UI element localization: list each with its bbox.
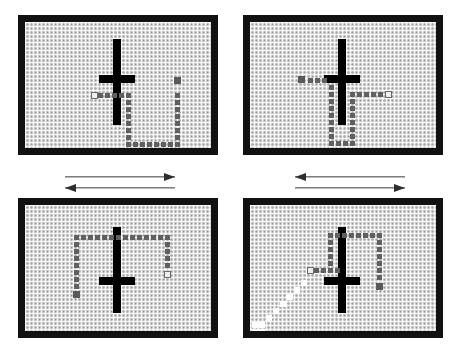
path-cell bbox=[377, 261, 382, 266]
path-cell bbox=[371, 92, 376, 97]
arrow-right-1-line bbox=[65, 176, 175, 177]
path-cell bbox=[130, 235, 135, 240]
path-cell bbox=[165, 242, 170, 247]
cross-obstacle-horizontal-bar bbox=[99, 75, 135, 83]
path-cell bbox=[315, 78, 320, 83]
path-cell bbox=[328, 233, 333, 238]
path-cell bbox=[168, 142, 173, 147]
path-cell bbox=[175, 114, 180, 119]
path-cell bbox=[74, 249, 79, 254]
path-cell bbox=[74, 277, 79, 282]
path-cell bbox=[151, 235, 156, 240]
path-cell bbox=[350, 127, 355, 132]
start-marker bbox=[385, 91, 392, 98]
path-cell bbox=[109, 235, 114, 240]
path-cell bbox=[343, 141, 348, 146]
path-cell bbox=[123, 235, 128, 240]
path-cell bbox=[350, 113, 355, 118]
trail-cell bbox=[259, 329, 265, 331]
arrow-right-2 bbox=[295, 183, 405, 192]
path-cell bbox=[126, 107, 131, 112]
path-cell bbox=[95, 235, 100, 240]
path-cell bbox=[377, 268, 382, 273]
path-cell bbox=[377, 233, 382, 238]
path-cell bbox=[357, 92, 362, 97]
path-cell bbox=[363, 233, 368, 238]
path-cell bbox=[126, 128, 131, 133]
trail-cell bbox=[287, 294, 293, 300]
path-cell bbox=[370, 233, 375, 238]
arrow-right-2-line bbox=[295, 187, 405, 188]
path-cell bbox=[329, 134, 334, 139]
path-cell bbox=[175, 142, 180, 147]
cross-obstacle-horizontal-bar bbox=[324, 277, 360, 285]
path-cell bbox=[321, 268, 326, 273]
path-cell bbox=[175, 128, 180, 133]
path-cell bbox=[336, 141, 341, 146]
path-cell bbox=[126, 121, 131, 126]
trail-cell bbox=[280, 301, 286, 307]
path-cell bbox=[328, 261, 333, 266]
path-cell bbox=[378, 92, 383, 97]
arrow-left-1 bbox=[65, 183, 175, 192]
path-cell bbox=[349, 233, 354, 238]
path-cell bbox=[377, 247, 382, 252]
path-cell bbox=[350, 106, 355, 111]
path-cell bbox=[112, 93, 117, 98]
path-cell bbox=[165, 256, 170, 261]
goal-marker bbox=[298, 76, 305, 83]
path-cell bbox=[126, 114, 131, 119]
trail-cell bbox=[266, 315, 272, 321]
panel-1 bbox=[18, 15, 218, 155]
arrow-right-1-head bbox=[164, 173, 175, 181]
path-cell bbox=[158, 235, 163, 240]
path-cell bbox=[126, 93, 131, 98]
path-cell bbox=[102, 235, 107, 240]
path-cell bbox=[165, 263, 170, 268]
path-cell bbox=[154, 142, 159, 147]
path-cell bbox=[329, 113, 334, 118]
path-cell bbox=[140, 142, 145, 147]
path-cell bbox=[74, 242, 79, 247]
path-cell bbox=[165, 235, 170, 240]
path-cell bbox=[356, 233, 361, 238]
path-cell bbox=[175, 121, 180, 126]
panel-4-grid bbox=[250, 205, 436, 331]
path-cell bbox=[126, 100, 131, 105]
path-cell bbox=[88, 235, 93, 240]
path-cell bbox=[126, 142, 131, 147]
path-cell bbox=[98, 93, 103, 98]
path-cell bbox=[328, 254, 333, 259]
trail-cell bbox=[252, 322, 258, 328]
panel-1-grid bbox=[25, 22, 211, 148]
panel-2 bbox=[243, 15, 443, 155]
path-cell bbox=[119, 93, 124, 98]
goal-marker bbox=[376, 283, 383, 290]
path-cell bbox=[74, 263, 79, 268]
path-cell bbox=[116, 235, 121, 240]
path-cell bbox=[377, 254, 382, 259]
path-cell bbox=[81, 235, 86, 240]
path-cell bbox=[74, 235, 79, 240]
path-cell bbox=[175, 100, 180, 105]
cross-obstacle-horizontal-bar bbox=[99, 277, 135, 285]
path-cell bbox=[350, 134, 355, 139]
trail-cell bbox=[259, 322, 265, 328]
path-cell bbox=[126, 135, 131, 140]
start-marker bbox=[164, 271, 171, 278]
arrow-left-2-head bbox=[295, 173, 306, 181]
path-cell bbox=[329, 106, 334, 111]
cross-obstacle-horizontal-bar bbox=[324, 75, 360, 83]
path-cell bbox=[335, 268, 340, 273]
path-cell bbox=[364, 92, 369, 97]
arrow-right-2-head bbox=[394, 184, 405, 192]
path-cell bbox=[314, 268, 319, 273]
panel-4 bbox=[243, 198, 443, 338]
path-cell bbox=[328, 240, 333, 245]
path-cell bbox=[350, 120, 355, 125]
path-cell bbox=[329, 85, 334, 90]
path-cell bbox=[329, 127, 334, 132]
path-cell bbox=[161, 142, 166, 147]
path-cell bbox=[144, 235, 149, 240]
arrow-left-1-line bbox=[65, 187, 175, 188]
